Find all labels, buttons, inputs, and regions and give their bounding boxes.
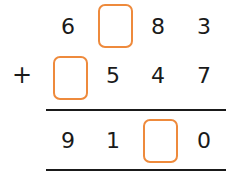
row2-blank-thousands-box[interactable] xyxy=(53,56,88,100)
plus-sign: + xyxy=(10,62,34,88)
row1-digit-tens: 8 xyxy=(138,14,178,40)
row1-digit-ones: 3 xyxy=(184,14,224,40)
row1-blank-hundreds-box[interactable] xyxy=(98,4,133,48)
sum-line-bottom xyxy=(46,169,226,171)
result-digit-ones: 0 xyxy=(184,128,224,154)
row2-digit-tens: 4 xyxy=(138,63,178,89)
sum-line-top xyxy=(46,109,226,111)
result-blank-tens-box[interactable] xyxy=(143,119,178,163)
row2-digit-ones: 7 xyxy=(184,63,224,89)
row2-digit-hundreds: 5 xyxy=(93,63,133,89)
result-digit-hundreds: 1 xyxy=(93,128,133,154)
row1-digit-thousands: 6 xyxy=(48,14,88,40)
result-digit-thousands: 9 xyxy=(48,128,88,154)
